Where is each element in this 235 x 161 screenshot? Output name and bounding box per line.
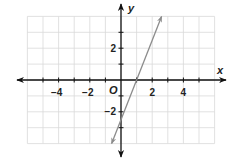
x-tick-label: −2	[82, 87, 94, 98]
y-axis-label: y	[127, 2, 135, 14]
origin-label: O	[109, 84, 118, 96]
x-tick-label: 4	[181, 87, 187, 98]
coordinate-plane: −4−2242−2 x y O	[0, 0, 235, 161]
y-tick-label: −2	[105, 106, 117, 117]
x-tick-label: 2	[149, 87, 155, 98]
y-tick-label: 2	[110, 43, 116, 54]
x-tick-label: −4	[51, 87, 63, 98]
axes	[17, 4, 226, 157]
x-axis-label: x	[216, 64, 224, 76]
